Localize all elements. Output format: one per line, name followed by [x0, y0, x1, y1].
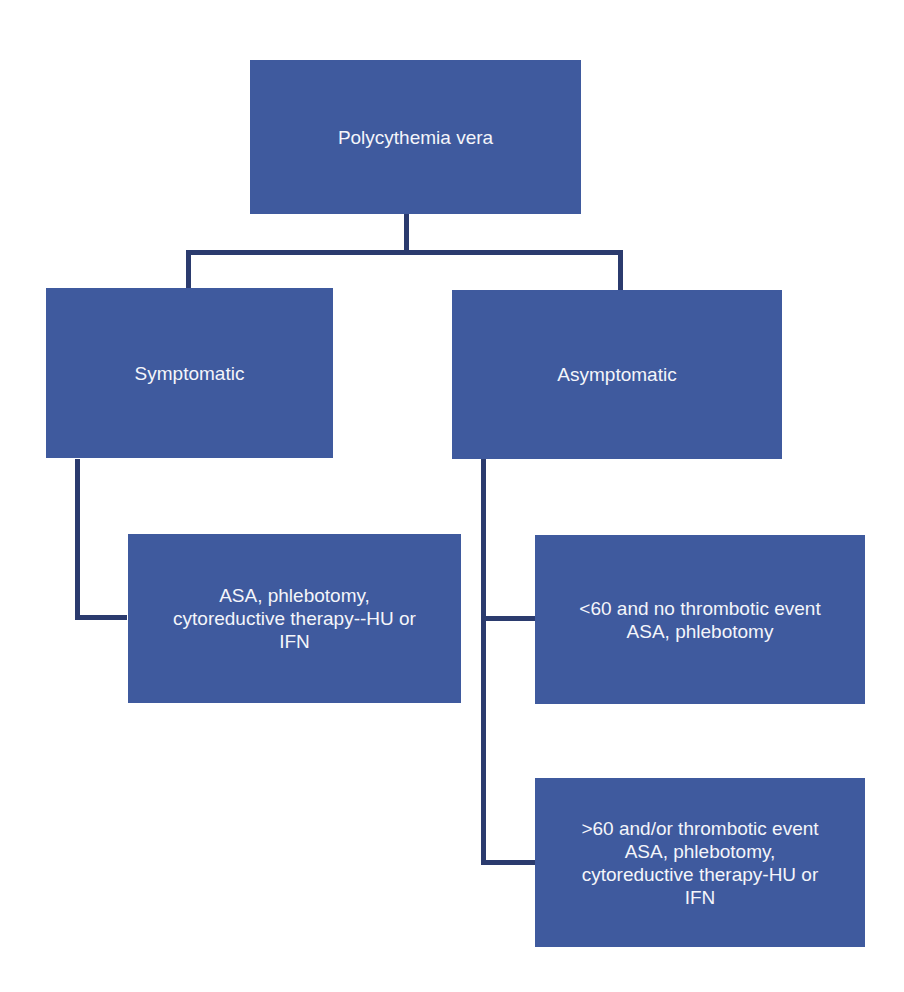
connector-asym-high-risk	[481, 860, 535, 865]
connector-root-down	[404, 214, 409, 255]
node-asymptomatic-low-risk: <60 and no thrombotic event ASA, phlebot…	[535, 535, 865, 704]
node-polycythemia-vera: Polycythemia vera	[250, 60, 581, 214]
node-asymptomatic: Asymptomatic	[452, 290, 782, 459]
node-symptomatic-treatment: ASA, phlebotomy, cytoreductive therapy--…	[128, 534, 461, 703]
node-asymptomatic-high-risk: >60 and/or thrombotic event ASA, phlebot…	[535, 778, 865, 947]
connector-to-symptomatic	[186, 250, 191, 288]
connector-symptomatic-right	[75, 615, 127, 620]
connector-to-asymptomatic	[618, 250, 623, 290]
flowchart-canvas: Polycythemia vera Symptomatic Asymptomat…	[0, 0, 904, 992]
node-symptomatic: Symptomatic	[46, 288, 333, 458]
connector-symptomatic-down	[75, 459, 80, 620]
connector-asymptomatic-down	[481, 459, 486, 865]
connector-branch-horizontal	[186, 250, 623, 255]
connector-asym-low-risk	[481, 616, 535, 621]
